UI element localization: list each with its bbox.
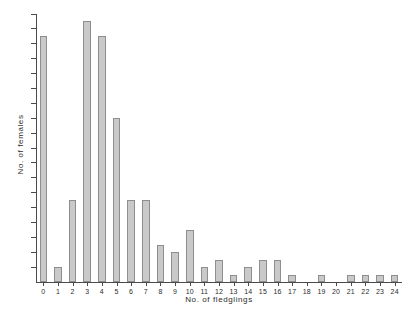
x-tick-mark [190, 282, 191, 286]
x-tick-mark [263, 282, 264, 286]
x-tick-label: 0 [35, 288, 51, 295]
x-tick-label: 18 [299, 288, 315, 295]
x-tick-mark [102, 282, 103, 286]
bar [244, 267, 252, 282]
bar [274, 260, 282, 282]
x-tick-label: 21 [343, 288, 359, 295]
x-tick-label: 4 [94, 288, 110, 295]
x-tick-label: 22 [357, 288, 373, 295]
x-tick-mark [380, 282, 381, 286]
x-tick-mark [87, 282, 88, 286]
x-tick-label: 11 [196, 288, 212, 295]
bar [259, 260, 267, 282]
x-tick-mark [131, 282, 132, 286]
bar [215, 260, 223, 282]
x-tick-label: 12 [211, 288, 227, 295]
y-axis-title: No. of females [16, 85, 25, 205]
x-tick-label: 19 [313, 288, 329, 295]
x-tick-label: 9 [167, 288, 183, 295]
x-tick-mark [307, 282, 308, 286]
bar [98, 36, 106, 282]
x-tick-label: 23 [372, 288, 388, 295]
x-tick-label: 13 [226, 288, 242, 295]
x-tick-mark [146, 282, 147, 286]
x-tick-mark [58, 282, 59, 286]
bar [127, 200, 135, 282]
x-tick-label: 20 [328, 288, 344, 295]
x-tick-label: 1 [50, 288, 66, 295]
bar [288, 275, 296, 282]
x-tick-label: 10 [182, 288, 198, 295]
bar [201, 267, 209, 282]
x-tick-label: 3 [79, 288, 95, 295]
x-tick-mark [336, 282, 337, 286]
x-tick-label: 6 [123, 288, 139, 295]
bar [142, 200, 150, 282]
x-tick-mark [219, 282, 220, 286]
x-tick-mark [248, 282, 249, 286]
x-tick-mark [321, 282, 322, 286]
x-tick-mark [175, 282, 176, 286]
x-tick-mark [365, 282, 366, 286]
bar [157, 245, 165, 282]
bar [40, 36, 48, 282]
x-tick-mark [160, 282, 161, 286]
x-tick-mark [292, 282, 293, 286]
x-tick-label: 2 [65, 288, 81, 295]
x-tick-mark [204, 282, 205, 286]
x-tick-label: 7 [138, 288, 154, 295]
bar [318, 275, 326, 282]
x-tick-mark [278, 282, 279, 286]
x-tick-label: 24 [387, 288, 403, 295]
x-axis-title: No. of fledglings [36, 295, 402, 304]
x-tick-mark [43, 282, 44, 286]
bar [186, 230, 194, 282]
x-tick-mark [234, 282, 235, 286]
x-tick-mark [395, 282, 396, 286]
bar [54, 267, 62, 282]
bar [171, 252, 179, 282]
x-tick-label: 8 [152, 288, 168, 295]
bar [376, 275, 384, 282]
bar [113, 118, 121, 282]
bar [362, 275, 370, 282]
x-tick-label: 14 [240, 288, 256, 295]
x-tick-label: 17 [284, 288, 300, 295]
x-tick-mark [117, 282, 118, 286]
x-tick-label: 16 [270, 288, 286, 295]
bar-chart-figure: 24681012141618202224262830323436 0123456… [0, 0, 410, 313]
bar [83, 21, 91, 282]
bar [347, 275, 355, 282]
bar [391, 275, 399, 282]
x-tick-mark [351, 282, 352, 286]
plot-area [36, 14, 402, 282]
bar [230, 275, 238, 282]
bar [69, 200, 77, 282]
x-tick-mark [73, 282, 74, 286]
x-tick-label: 5 [109, 288, 125, 295]
x-tick-label: 15 [255, 288, 271, 295]
